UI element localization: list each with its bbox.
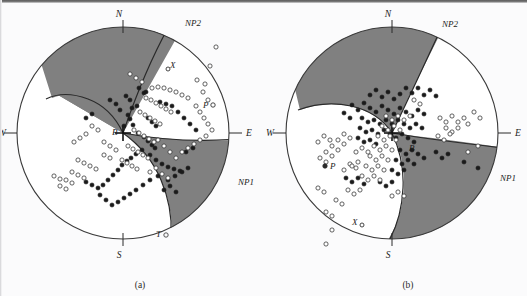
panel-b-p-axis-marker	[323, 164, 327, 168]
polarity-marker-dilatation	[390, 118, 394, 122]
panel-b-label-east: E	[514, 128, 521, 138]
polarity-marker-dilatation	[64, 178, 68, 182]
polarity-marker-compression	[358, 126, 362, 130]
panel-a: N S E W NP2 NP1 P T B X (a)	[0, 9, 254, 291]
polarity-marker-compression	[392, 97, 396, 101]
polarity-marker-dilatation	[380, 124, 384, 128]
polarity-marker-dilatation	[198, 110, 202, 114]
polarity-marker-dilatation	[342, 132, 346, 136]
polarity-marker-compression	[131, 123, 135, 127]
polarity-marker-dilatation	[372, 144, 376, 148]
polarity-marker-dilatation	[402, 194, 406, 198]
polarity-marker-dilatation	[156, 138, 160, 142]
panel-a-label-east: E	[245, 128, 252, 138]
polarity-marker-compression	[104, 198, 108, 202]
panel-a-label-np1: NP1	[237, 177, 254, 187]
panel-b-label-p-axis: P	[329, 161, 336, 171]
polarity-marker-compression	[84, 116, 88, 120]
panel-a-label-np2: NP2	[184, 18, 202, 28]
polarity-marker-compression	[372, 118, 376, 122]
polarity-marker-dilatation	[444, 126, 448, 130]
polarity-marker-dilatation	[82, 176, 86, 180]
polarity-marker-dilatation	[132, 128, 136, 132]
polarity-marker-compression	[382, 128, 386, 132]
polarity-marker-dilatation	[141, 153, 145, 157]
polarity-marker-compression	[188, 122, 192, 126]
polarity-marker-compression	[118, 108, 122, 112]
polarity-marker-compression	[160, 162, 164, 166]
polarity-marker-compression	[390, 180, 394, 184]
polarity-marker-compression	[422, 156, 426, 160]
polarity-marker-compression	[374, 88, 378, 92]
polarity-marker-dilatation	[204, 134, 208, 138]
polarity-marker-compression	[420, 126, 424, 130]
scan-artifact-left-edge	[0, 0, 2, 296]
panel-a-t-axis-marker	[164, 233, 168, 237]
polarity-marker-compression	[128, 117, 132, 121]
polarity-marker-dilatation	[456, 126, 460, 130]
polarity-marker-dilatation	[360, 174, 364, 178]
polarity-marker-dilatation	[140, 80, 144, 84]
polarity-marker-compression	[191, 146, 195, 150]
polarity-marker-dilatation	[412, 98, 416, 102]
polarity-marker-dilatation	[84, 132, 88, 136]
polarity-marker-dilatation	[352, 192, 356, 196]
polarity-marker-dilatation	[126, 144, 130, 148]
polarity-marker-dilatation	[125, 161, 129, 165]
polarity-marker-compression	[137, 86, 141, 90]
polarity-marker-compression	[398, 148, 402, 152]
polarity-marker-dilatation	[418, 102, 422, 106]
polarity-marker-compression	[350, 180, 354, 184]
polarity-marker-dilatation	[316, 140, 320, 144]
polarity-marker-dilatation	[186, 146, 190, 150]
polarity-marker-compression	[416, 152, 420, 156]
polarity-marker-compression	[396, 172, 400, 176]
polarity-marker-compression	[128, 192, 132, 196]
panel-b-label-south: S	[386, 250, 391, 260]
polarity-marker-compression	[368, 138, 372, 142]
polarity-marker-compression	[344, 176, 348, 180]
polarity-marker-compression	[90, 112, 94, 116]
polarity-marker-dilatation	[336, 138, 340, 142]
polarity-marker-compression	[380, 104, 384, 108]
polarity-marker-dilatation	[360, 146, 364, 150]
polarity-marker-dilatation	[180, 93, 184, 97]
polarity-marker-compression	[366, 120, 370, 124]
polarity-marker-dilatation	[206, 122, 210, 126]
polarity-marker-dilatation	[78, 136, 82, 140]
polarity-marker-dilatation	[346, 188, 350, 192]
panel-b-quadrant-se	[388, 133, 508, 246]
polarity-marker-dilatation	[398, 128, 402, 132]
polarity-marker-compression	[406, 136, 410, 140]
polarity-marker-dilatation	[392, 124, 396, 128]
polarity-marker-compression	[398, 106, 402, 110]
polarity-marker-dilatation	[158, 122, 162, 126]
polarity-marker-compression	[408, 126, 412, 130]
polarity-marker-dilatation	[203, 82, 207, 86]
polarity-marker-compression	[134, 188, 138, 192]
polarity-marker-dilatation	[354, 150, 358, 154]
polarity-marker-dilatation	[108, 156, 112, 160]
polarity-marker-compression	[398, 92, 402, 96]
panel-b-label-north: N	[384, 9, 392, 19]
polarity-marker-dilatation	[364, 164, 368, 168]
polarity-marker-compression	[174, 190, 178, 194]
polarity-marker-compression	[402, 168, 406, 172]
polarity-marker-dilatation	[180, 150, 184, 154]
polarity-marker-compression	[348, 116, 352, 120]
panel-b-label-np1: NP1	[499, 173, 516, 183]
polarity-marker-dilatation	[134, 76, 138, 80]
polarity-marker-dilatation	[354, 166, 358, 170]
polarity-marker-compression	[116, 200, 120, 204]
polarity-marker-compression	[434, 94, 438, 98]
polarity-marker-compression	[404, 152, 408, 156]
panel-b-label-b-axis: B	[409, 143, 415, 153]
polarity-marker-compression	[370, 128, 374, 132]
polarity-marker-compression	[476, 166, 480, 170]
polarity-marker-compression	[126, 113, 130, 117]
polarity-marker-dilatation	[390, 194, 394, 198]
polarity-marker-dilatation	[130, 164, 134, 168]
polarity-marker-dilatation	[90, 124, 94, 128]
polarity-marker-dilatation	[120, 158, 124, 162]
polarity-marker-compression	[360, 116, 364, 120]
